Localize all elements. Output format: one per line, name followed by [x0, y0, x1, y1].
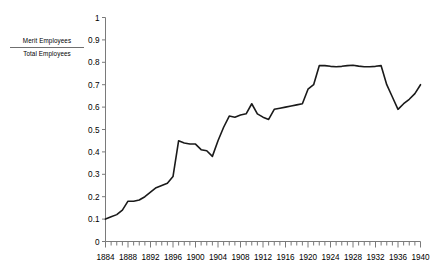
y-tick-label: 0.1: [88, 215, 100, 224]
x-tick-label: 1920: [299, 253, 318, 262]
chart-figure: Merit Employees Total Employees 10.90.80…: [0, 0, 435, 277]
y-tick-label: 0.4: [88, 148, 100, 157]
x-tick-label: 1896: [164, 253, 183, 262]
x-tick-label: 1912: [254, 253, 273, 262]
y-tick-label: 0.7: [88, 81, 100, 90]
y-tick-label: 0.8: [88, 58, 100, 67]
x-tick-label: 1940: [411, 253, 430, 262]
y-tick-label: 0.2: [88, 193, 100, 202]
x-tick-label: 1888: [119, 253, 138, 262]
y-tick-label: 0.5: [88, 126, 100, 135]
x-tick-label: 1900: [186, 253, 205, 262]
data-series-merit-ratio: [106, 65, 421, 219]
x-tick-label: 1928: [344, 253, 363, 262]
x-tick-label: 1892: [141, 253, 160, 262]
x-tick-label: 1904: [209, 253, 228, 262]
x-axis: 1884188818921896190019041908191219161920…: [96, 242, 430, 262]
x-tick-label: 1916: [276, 253, 295, 262]
y-tick-label: 0.3: [88, 170, 100, 179]
y-tick-label: 0.9: [88, 36, 100, 45]
x-tick-label: 1908: [231, 253, 250, 262]
x-tick-label: 1932: [366, 253, 385, 262]
y-tick-label: 0: [95, 238, 100, 247]
x-tick-label: 1884: [96, 253, 115, 262]
line-chart-plot: 10.90.80.70.60.50.40.30.20.10 1884188818…: [0, 0, 435, 277]
y-tick-label: 0.6: [88, 103, 100, 112]
y-tick-label: 1: [95, 14, 100, 23]
series-line: [106, 65, 421, 219]
x-tick-label: 1924: [321, 253, 340, 262]
y-axis: 10.90.80.70.60.50.40.30.20.10: [88, 14, 105, 247]
x-tick-label: 1936: [389, 253, 408, 262]
